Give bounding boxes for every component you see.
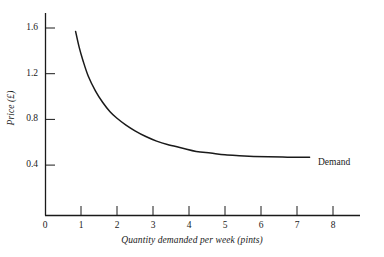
demand-curve-line: [76, 31, 310, 157]
demand-series-label: Demand: [318, 157, 350, 167]
y-axis-ticks: [46, 28, 56, 165]
x-tick-label-4: 4: [187, 221, 192, 231]
x-tick-label-1: 1: [79, 221, 84, 231]
x-tick-label-5: 5: [223, 221, 228, 231]
y-tick-label-1.6: 1.6: [18, 23, 38, 33]
demand-curve-chart: 1.6 1.2 0.8 0.4 0 1 2 3 4 5 6 7 8 Quanti…: [0, 0, 384, 257]
x-tick-label-7: 7: [295, 221, 300, 231]
y-tick-label-0.4: 0.4: [18, 160, 38, 170]
x-axis-ticks: [81, 206, 333, 216]
x-tick-label-3: 3: [151, 221, 156, 231]
x-tick-label-2: 2: [115, 221, 120, 231]
y-axis-title: Price (£): [6, 91, 16, 126]
y-tick-label-1.2: 1.2: [18, 69, 38, 79]
chart-plot-area: [0, 0, 384, 257]
x-tick-label-6: 6: [259, 221, 264, 231]
x-tick-label-8: 8: [331, 221, 336, 231]
x-axis-title: Quantity demanded per week (pints): [121, 235, 263, 245]
x-tick-label-0: 0: [43, 221, 48, 231]
y-tick-label-0.8: 0.8: [18, 115, 38, 125]
